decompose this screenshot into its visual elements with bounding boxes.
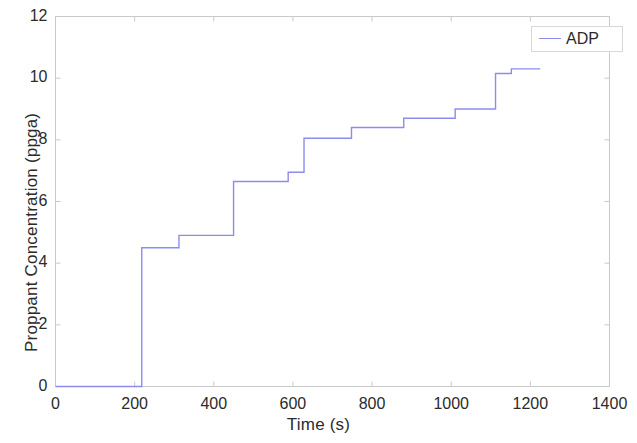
x-tick-label: 600 — [253, 395, 333, 413]
y-tick-label: 0 — [39, 377, 48, 395]
y-tick-label: 10 — [30, 68, 48, 86]
y-tick-label: 12 — [30, 7, 48, 25]
x-tick-label: 200 — [95, 395, 175, 413]
y-axis-title: Proppant Concentration (ppga) — [22, 113, 42, 352]
x-axis-title: Time (s) — [0, 415, 637, 435]
x-tick-label: 400 — [174, 395, 254, 413]
x-tick-label: 1400 — [570, 395, 637, 413]
x-tick-label: 800 — [332, 395, 412, 413]
chart-figure: 024681012 0200400600800100012001400 Prop… — [0, 0, 637, 443]
x-tick-label: 1000 — [411, 395, 491, 413]
x-tick-label: 1200 — [490, 395, 570, 413]
legend-line-swatch-adp — [539, 38, 561, 39]
legend-label-adp: ADP — [566, 30, 599, 48]
x-tick-label: 0 — [16, 395, 96, 413]
plot-frame — [56, 17, 610, 387]
plot-area — [0, 0, 637, 443]
